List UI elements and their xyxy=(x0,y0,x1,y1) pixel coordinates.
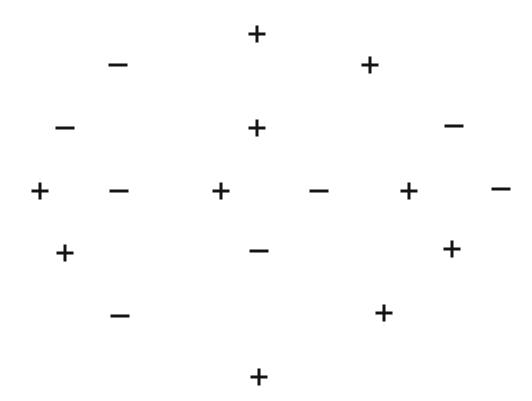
minus-icon xyxy=(56,126,75,130)
plus-icon xyxy=(249,26,266,43)
plus-icon xyxy=(362,57,379,74)
plus-icon xyxy=(249,120,266,137)
plus-icon xyxy=(444,241,461,258)
plus-icon xyxy=(376,305,393,322)
minus-icon xyxy=(310,189,329,193)
plus-icon xyxy=(251,369,268,386)
minus-icon xyxy=(445,124,464,128)
plus-icon xyxy=(213,183,230,200)
plus-icon xyxy=(32,183,49,200)
minus-icon xyxy=(110,189,129,193)
plus-icon xyxy=(57,245,74,262)
minus-icon xyxy=(111,314,130,318)
minus-icon xyxy=(492,187,511,191)
symbol-array-canvas xyxy=(0,0,532,401)
minus-icon xyxy=(109,63,128,67)
minus-icon xyxy=(250,249,269,253)
plus-icon xyxy=(401,183,418,200)
